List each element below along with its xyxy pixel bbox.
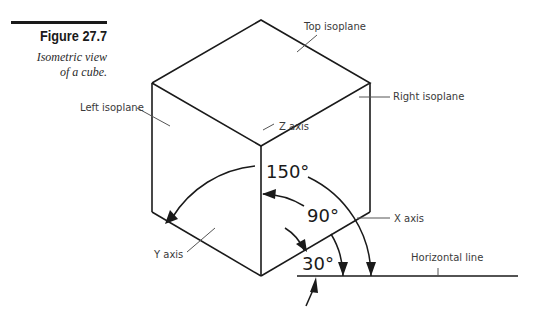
arrowhead-30-bottom-icon — [310, 277, 318, 293]
top-face-outline — [152, 20, 370, 146]
x-axis-label: X axis — [394, 213, 424, 224]
right-isoplane-label: Right isoplane — [393, 91, 464, 102]
angle-arc-150-left — [172, 166, 255, 218]
arrowhead-150-start-icon — [366, 262, 376, 276]
angle-30-bottom-leader — [306, 290, 313, 306]
angle-30-label: 30° — [302, 253, 334, 274]
arrowhead-30-top-icon — [296, 239, 307, 252]
cube — [152, 20, 370, 276]
y-axis-label: Y axis — [153, 249, 183, 260]
horizontal-line-label: Horizontal line — [411, 252, 483, 263]
z-axis-label: Z axis — [279, 121, 309, 132]
arrowhead-90-start-icon — [338, 262, 348, 276]
angle-90-label: 90° — [307, 205, 339, 226]
arrowhead-90-end-icon — [262, 189, 276, 199]
top-isoplane-leader — [297, 35, 317, 52]
angle-150-label: 150° — [266, 161, 309, 182]
left-isoplane-label: Left isoplane — [80, 102, 144, 113]
y-axis-leader — [187, 228, 215, 252]
isometric-cube-diagram: Top isoplane Left isoplane Right isoplan… — [0, 0, 533, 319]
top-isoplane-label: Top isoplane — [303, 21, 366, 32]
z-axis-leader — [263, 124, 274, 130]
